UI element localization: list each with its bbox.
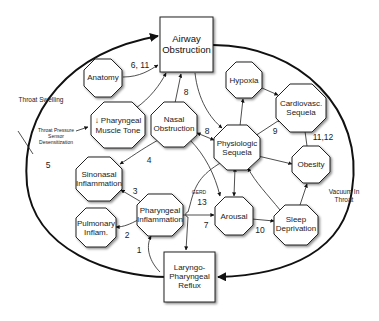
node-anatomy: Anatomy — [84, 59, 122, 97]
svg-text:Anatomy: Anatomy — [87, 73, 119, 82]
sensor-to-muscle-tone-edge — [76, 127, 88, 131]
edge-sleep-physiologic — [248, 168, 280, 210]
node-pharyngeal-muscle-tone: ↓ Pharyngeal Muscle Tone — [91, 102, 145, 148]
node-hypoxia: Hypoxia — [226, 62, 262, 98]
label-nasal-sinonasal: 4 — [147, 155, 152, 165]
node-arousal: Arousal — [215, 197, 253, 235]
svg-text:Pulmonary: Pulmonary — [77, 219, 115, 228]
edge-physiologic-hypoxia — [240, 99, 243, 126]
svg-text:Inflam.: Inflam. — [84, 228, 108, 237]
edge-physiologic-arousal — [234, 168, 235, 196]
node-cardiovasc-sequela: Cardiovasc. Sequela — [276, 84, 326, 132]
edge-lpr-pharyngeal — [148, 236, 160, 272]
svg-text:Reflux: Reflux — [178, 281, 201, 290]
svg-text:Nasal: Nasal — [164, 115, 185, 124]
label-gerd-13: 13 — [197, 197, 207, 207]
label-sensor-line3: Desensitization — [39, 139, 73, 145]
node-obesity: Obesity — [292, 146, 330, 183]
label-throat-swelling: Throat Swelling — [19, 96, 64, 104]
svg-text:Cardiovasc.: Cardiovasc. — [280, 99, 322, 108]
svg-text:Obesity: Obesity — [297, 160, 324, 169]
node-sleep-deprivation: Sleep Deprivation — [274, 205, 318, 245]
label-pharyngeal-pulmonary: 2 — [125, 230, 130, 240]
svg-text:Laryngo-: Laryngo- — [174, 263, 206, 272]
label-nasal-physiologic: 8 — [205, 126, 210, 136]
svg-text:Obstruction: Obstruction — [154, 124, 195, 133]
node-sinonasal-inflammation: Sinonasal Inflammation — [76, 157, 122, 201]
label-physiologic-cardiovasc: 9 — [273, 126, 278, 136]
node-pulmonary-inflam: Pulmonary Inflam. — [76, 208, 116, 247]
node-nasal-obstruction: Nasal Obstruction — [151, 102, 197, 147]
svg-text:Airway: Airway — [172, 33, 201, 44]
svg-text:Sequela: Sequela — [222, 148, 252, 157]
edge-airway-physiologic — [195, 73, 222, 128]
svg-text:Inflammation: Inflammation — [76, 179, 122, 188]
node-pharyngeal-inflammation: Pharyngeal Inflammation — [137, 194, 183, 236]
svg-text:Pharyngeal: Pharyngeal — [169, 272, 210, 281]
label-anatomy-airway: 6, 11 — [131, 60, 150, 70]
label-gerd: GERD — [192, 189, 207, 195]
svg-text:Obstruction: Obstruction — [162, 44, 211, 55]
causal-diagram: Airway Obstruction Laryngo- Pharyngeal R… — [0, 0, 379, 321]
label-arousal-sleep: 10 — [255, 225, 265, 235]
node-physiologic-sequela: Physiologic Sequela — [214, 125, 260, 170]
svg-text:Inflammation: Inflammation — [137, 215, 183, 224]
label-pharyngeal-sinonasal: 3 — [133, 186, 138, 196]
edge-physiologic-obesity — [258, 156, 292, 164]
label-outer-left-5: 5 — [46, 160, 51, 170]
svg-text:Muscle Tone: Muscle Tone — [96, 126, 141, 135]
svg-text:Arousal: Arousal — [220, 212, 247, 221]
label-vacuum-line1: Vacuum In — [329, 188, 360, 195]
edge-sleep-obesity — [300, 184, 307, 205]
label-lpr-pharyngeal: 1 — [137, 245, 142, 255]
svg-text:↓ Pharyngeal: ↓ Pharyngeal — [95, 116, 142, 125]
edge-pharyngeal-pulmonary — [116, 220, 138, 227]
svg-text:Sequela: Sequela — [286, 108, 316, 117]
svg-text:Sinonasal: Sinonasal — [81, 170, 116, 179]
label-pharyngeal-arousal: 7 — [204, 220, 209, 230]
svg-text:Pharyngeal: Pharyngeal — [140, 206, 181, 215]
node-laryngo-pharyngeal-reflux: Laryngo- Pharyngeal Reflux — [164, 252, 215, 302]
label-nasal-airway: 8 — [184, 87, 189, 97]
edge-nasal-airway — [175, 74, 181, 103]
label-obesity-cardiovasc: 11,12 — [313, 132, 334, 142]
edge-muscletone-airway — [136, 73, 166, 108]
node-airway-obstruction: Airway Obstruction — [160, 17, 213, 72]
svg-text:Deprivation: Deprivation — [276, 224, 316, 233]
svg-text:Sleep: Sleep — [286, 215, 307, 224]
edge-hypoxia-cardiovasc — [262, 88, 278, 95]
svg-text:Physiologic: Physiologic — [217, 139, 257, 148]
svg-text:Hypoxia: Hypoxia — [230, 76, 259, 85]
label-vacuum-line2: Throat — [335, 196, 354, 203]
edge-arousal-sleep — [252, 219, 274, 221]
